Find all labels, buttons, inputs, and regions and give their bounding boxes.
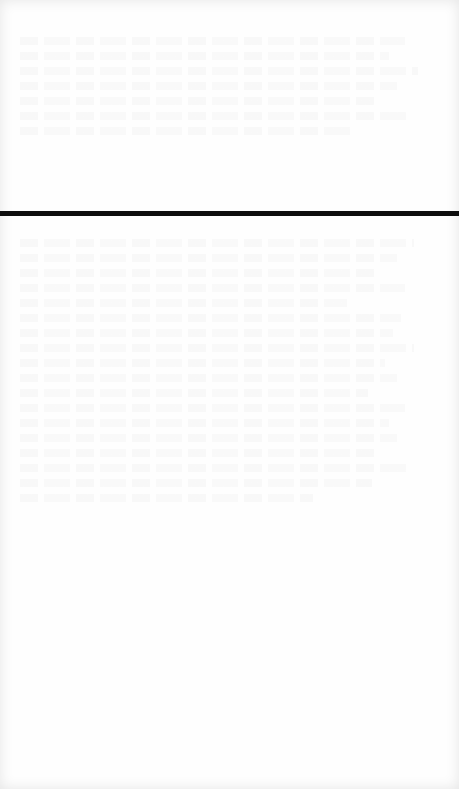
- faint-line: [20, 419, 389, 427]
- faint-line: [20, 269, 376, 277]
- faint-line: [20, 494, 313, 502]
- horizontal-divider: [0, 211, 459, 216]
- faint-line: [20, 254, 397, 262]
- faint-line: [20, 82, 397, 90]
- faint-line: [20, 404, 405, 412]
- faint-line: [20, 389, 368, 397]
- faint-line: [20, 239, 414, 247]
- faint-line: [20, 127, 355, 135]
- faint-line: [20, 112, 410, 120]
- faint-line: [20, 434, 397, 442]
- bleed-through-text-top: [20, 30, 439, 139]
- faint-line: [20, 299, 347, 307]
- faint-line: [20, 37, 405, 45]
- faint-line: [20, 374, 397, 382]
- faint-line: [20, 464, 410, 472]
- faint-line: [20, 67, 418, 75]
- faint-line: [20, 359, 385, 367]
- faint-line: [20, 52, 389, 60]
- faint-line: [20, 344, 414, 352]
- faint-line: [20, 97, 380, 105]
- faint-line: [20, 314, 401, 322]
- faint-line: [20, 449, 380, 457]
- faint-line: [20, 329, 393, 337]
- document-page: [0, 0, 459, 789]
- bleed-through-text-bottom: [20, 232, 439, 506]
- faint-line: [20, 284, 405, 292]
- faint-line: [20, 479, 372, 487]
